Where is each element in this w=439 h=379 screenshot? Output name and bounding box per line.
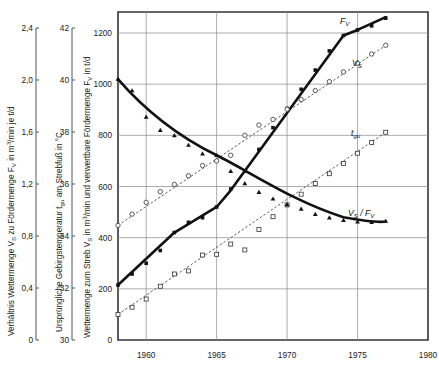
data-point-1	[130, 305, 134, 309]
data-point-9	[242, 181, 247, 185]
data-point-18	[369, 52, 373, 56]
data-point-15	[327, 79, 331, 83]
data-point-13	[299, 97, 303, 101]
data-point-2	[144, 200, 148, 204]
data-point-2	[144, 115, 149, 119]
data-point-15	[327, 172, 331, 176]
data-point-19	[384, 130, 388, 134]
data-point-14	[313, 181, 317, 185]
y-main-axis-title: Wettermenge zum Streb VS in m3/min und v…	[81, 56, 93, 338]
curve-label-fv: FV	[340, 16, 350, 27]
data-point-8	[229, 187, 233, 191]
plot-border	[118, 12, 428, 340]
data-point-8	[228, 169, 233, 173]
curve-label-ratio: VS / FV	[348, 208, 375, 219]
data-point-0	[116, 283, 120, 287]
data-point-14	[313, 212, 318, 216]
data-point-13	[299, 192, 303, 196]
ytick-main-0: 0	[107, 335, 112, 345]
data-point-7	[214, 159, 218, 163]
y-ratio-ticklabel-0: 0	[28, 335, 33, 345]
ytick-main-800: 800	[98, 130, 112, 140]
xtick-1975: 1975	[348, 350, 367, 360]
y-temp-axis-title: Ursprüngliche Gebirgstemperatur tgu am S…	[55, 132, 65, 332]
data-point-15	[327, 215, 332, 219]
data-point-5	[186, 174, 190, 178]
y-ratio-ticklabel-0_8: 0,8	[21, 231, 33, 241]
y-temp-ticklabel-42: 42	[60, 23, 70, 33]
data-point-5	[187, 221, 191, 225]
xtick-1980: 1980	[419, 350, 438, 360]
curve-F_V	[118, 17, 386, 285]
data-point-10	[257, 227, 261, 231]
data-point-10	[257, 123, 261, 127]
data-point-2	[144, 261, 148, 265]
data-point-13	[299, 207, 304, 211]
series-F_V	[116, 16, 387, 286]
figure-container: 0200400600800100012001960196519701975198…	[0, 0, 439, 379]
data-point-1	[130, 212, 134, 216]
curve-V_S-over-F_V	[118, 79, 386, 222]
curve-label-vs: VS	[352, 58, 363, 69]
data-point-11	[271, 126, 275, 130]
data-point-13	[299, 87, 303, 91]
data-point-17	[356, 151, 360, 155]
data-point-10	[257, 148, 261, 152]
data-point-14	[313, 88, 317, 92]
data-point-6	[200, 151, 205, 155]
y-temp-ticklabel-40: 40	[60, 75, 70, 85]
data-point-3	[158, 249, 162, 253]
xtick-1965: 1965	[207, 350, 226, 360]
chart-canvas: 0200400600800100012001960196519701975198…	[0, 0, 439, 379]
ytick-main-1000: 1000	[94, 79, 113, 89]
data-point-0	[116, 77, 121, 81]
data-point-0	[116, 312, 120, 316]
data-point-8	[229, 153, 233, 157]
ytick-main-200: 200	[98, 284, 112, 294]
series-V_S-over-F_V	[116, 77, 389, 224]
y-ratio-ticklabel-1_2: 1,2	[21, 179, 33, 189]
data-point-9	[243, 133, 247, 137]
data-point-3	[158, 189, 162, 193]
data-point-5	[186, 143, 191, 147]
y-ratio-ticklabel-1_6: 1,6	[21, 127, 33, 137]
data-point-6	[201, 216, 205, 220]
data-point-7	[215, 205, 219, 209]
data-point-0	[116, 223, 120, 227]
y-ratio-ticklabel-0_4: 0,4	[21, 283, 33, 293]
data-point-3	[158, 128, 163, 132]
y-temp-ticklabel-30: 30	[60, 335, 70, 345]
data-point-19	[384, 43, 388, 47]
data-point-4	[172, 182, 176, 186]
data-point-16	[341, 70, 345, 74]
data-point-12	[285, 107, 289, 111]
y-ratio-axis-title: Verhältnis Wettermenge VS zu Fördermenge…	[5, 106, 17, 336]
data-point-6	[201, 253, 205, 257]
data-point-17	[356, 28, 360, 32]
data-point-16	[341, 161, 345, 165]
y-ratio-ticklabel-2_4: 2,4	[21, 23, 33, 33]
data-point-16	[342, 34, 346, 38]
data-point-7	[215, 252, 219, 256]
ytick-main-1200: 1200	[94, 28, 113, 38]
xtick-1960: 1960	[137, 350, 156, 360]
data-point-1	[130, 88, 135, 92]
y-ratio-ticklabel-2: 2,0	[21, 75, 33, 85]
data-point-6	[200, 163, 204, 167]
data-point-18	[370, 24, 374, 28]
data-point-4	[172, 272, 176, 276]
data-point-18	[370, 140, 374, 144]
data-point-2	[144, 297, 148, 301]
data-point-11	[271, 215, 275, 219]
curve-label-tgu: tgu	[351, 128, 361, 139]
data-point-19	[384, 16, 388, 20]
data-point-11	[271, 196, 276, 200]
xtick-1970: 1970	[278, 350, 297, 360]
data-point-14	[313, 68, 317, 72]
data-point-3	[158, 284, 162, 288]
data-point-5	[186, 269, 190, 273]
data-point-9	[243, 248, 247, 252]
data-point-1	[130, 272, 134, 276]
data-point-11	[271, 117, 275, 121]
data-point-8	[229, 242, 233, 246]
